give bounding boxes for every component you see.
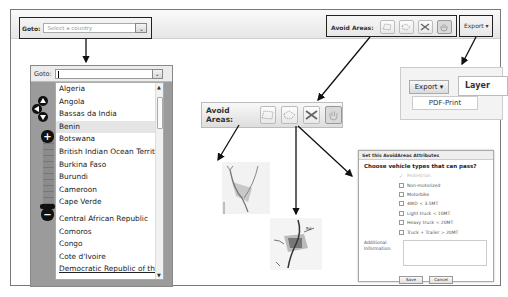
callout-arrows bbox=[0, 0, 508, 297]
